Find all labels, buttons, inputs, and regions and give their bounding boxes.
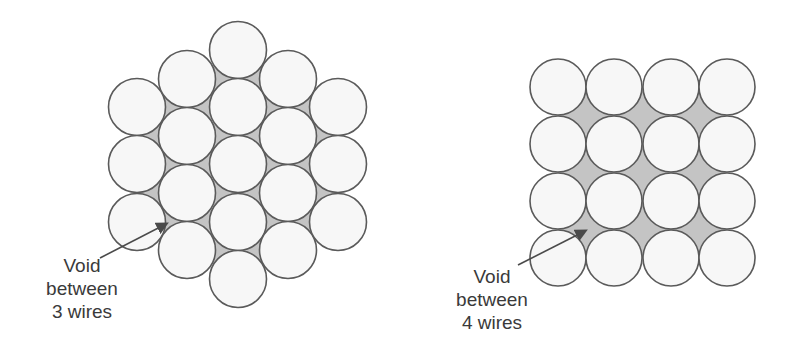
wire-circle <box>210 136 267 193</box>
wire-circle <box>260 165 317 222</box>
wire-circle <box>260 108 317 165</box>
wire-circle <box>210 79 267 136</box>
label-line: Void <box>437 265 547 288</box>
wire-circle <box>159 222 216 279</box>
wire-circle <box>643 116 699 172</box>
wire-circle <box>109 136 166 193</box>
wire-circle <box>210 251 267 308</box>
wire-circle <box>530 173 586 229</box>
label-line: 4 wires <box>437 311 547 334</box>
wire-circle <box>586 230 642 286</box>
wire-circle <box>159 165 216 222</box>
label-line: Void <box>27 254 137 277</box>
wire-circle <box>210 22 267 79</box>
wire-circle <box>699 59 755 115</box>
wire-circle <box>699 230 755 286</box>
wire-circle <box>643 173 699 229</box>
label-line: 3 wires <box>27 300 137 323</box>
wire-circle <box>586 116 642 172</box>
label-void-4-wires: Void between 4 wires <box>437 265 547 334</box>
hexagonal-wire-bundle <box>109 22 367 308</box>
wire-circle <box>310 194 367 251</box>
wire-circle <box>109 194 166 251</box>
label-void-3-wires: Void between 3 wires <box>27 254 137 323</box>
wire-circle <box>260 51 317 108</box>
wire-circle <box>699 116 755 172</box>
wire-circle <box>310 136 367 193</box>
wire-circle <box>643 59 699 115</box>
label-line: between <box>437 288 547 311</box>
wire-circle <box>586 59 642 115</box>
wire-circle <box>310 79 367 136</box>
wire-circle <box>260 222 317 279</box>
wire-circle <box>159 51 216 108</box>
label-line: between <box>27 277 137 300</box>
wire-circle <box>159 108 216 165</box>
wire-circle <box>210 194 267 251</box>
wire-circle <box>643 230 699 286</box>
wire-circle <box>530 59 586 115</box>
wire-circle <box>109 79 166 136</box>
wire-circle <box>699 173 755 229</box>
wire-circle <box>586 173 642 229</box>
wire-circle <box>530 116 586 172</box>
